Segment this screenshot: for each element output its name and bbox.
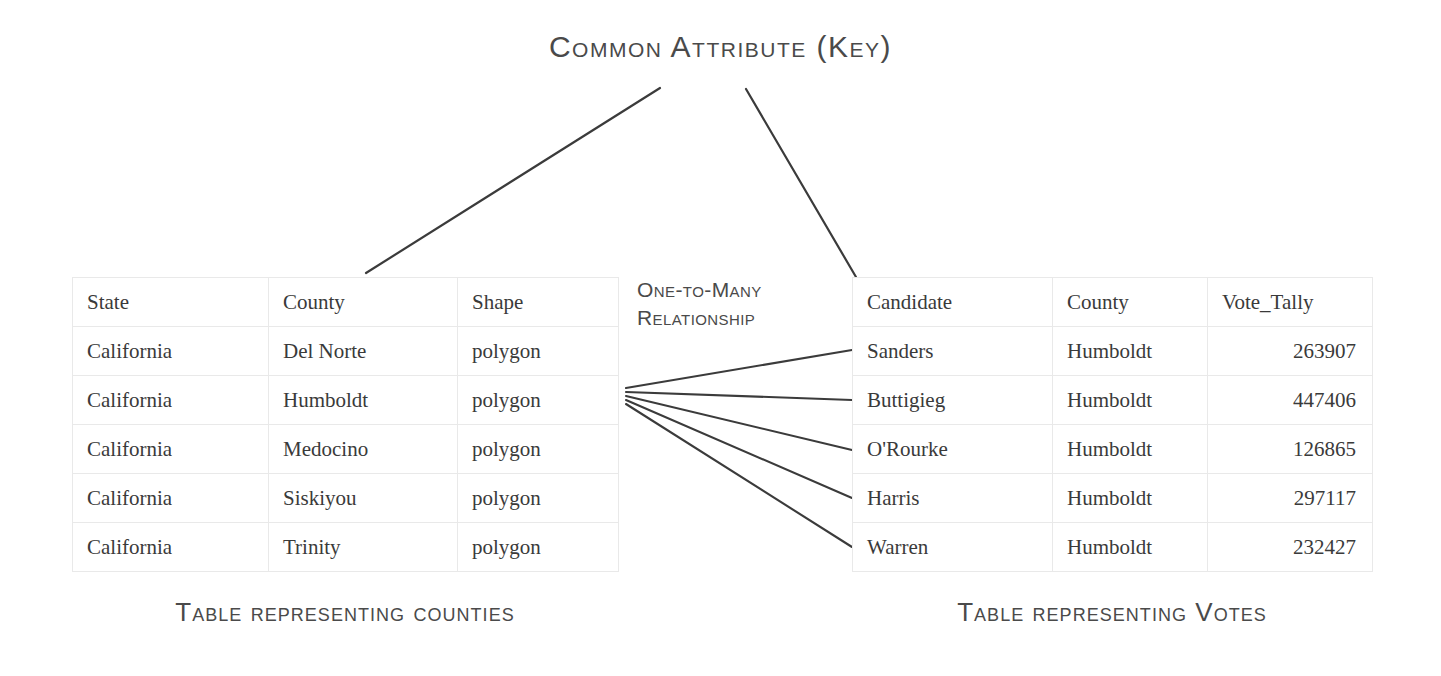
- column-header-county: County: [1053, 278, 1208, 327]
- cell-shape: polygon: [458, 474, 619, 523]
- cell-state: California: [73, 327, 269, 376]
- cell-state: California: [73, 523, 269, 572]
- table-row: Harris Humboldt 297117: [853, 474, 1373, 523]
- table-header-row: State County Shape: [73, 278, 619, 327]
- cell-vote-tally: 126865: [1208, 425, 1373, 474]
- table-row: Warren Humboldt 232427: [853, 523, 1373, 572]
- table-row: Sanders Humboldt 263907: [853, 327, 1373, 376]
- key-pointer-left-line: [366, 88, 660, 273]
- cell-county: Humboldt: [269, 376, 458, 425]
- column-header-county: County: [269, 278, 458, 327]
- cell-county: Humboldt: [1053, 523, 1208, 572]
- cell-county: Humboldt: [1053, 474, 1208, 523]
- cell-candidate: Harris: [853, 474, 1053, 523]
- relation-line-3: [626, 396, 852, 450]
- cell-vote-tally: 263907: [1208, 327, 1373, 376]
- relation-line-5: [626, 404, 852, 547]
- relation-line-4: [626, 400, 852, 498]
- votes-table: Candidate County Vote_Tally Sanders Humb…: [852, 277, 1373, 572]
- table-row: California Medocino polygon: [73, 425, 619, 474]
- table-row: California Trinity polygon: [73, 523, 619, 572]
- table-row: California Humboldt polygon: [73, 376, 619, 425]
- column-header-candidate: Candidate: [853, 278, 1053, 327]
- cell-candidate: Sanders: [853, 327, 1053, 376]
- table-row: California Del Norte polygon: [73, 327, 619, 376]
- counties-table: State County Shape California Del Norte …: [72, 277, 619, 572]
- cell-state: California: [73, 425, 269, 474]
- key-pointer-right-line: [746, 89, 856, 277]
- cell-shape: polygon: [458, 523, 619, 572]
- cell-county: Medocino: [269, 425, 458, 474]
- cell-county: Humboldt: [1053, 327, 1208, 376]
- cell-county: Del Norte: [269, 327, 458, 376]
- caption-counties-table: Table representing counties: [72, 597, 618, 628]
- cell-county: Trinity: [269, 523, 458, 572]
- cell-state: California: [73, 376, 269, 425]
- table-row: California Siskiyou polygon: [73, 474, 619, 523]
- column-header-vote-tally: Vote_Tally: [1208, 278, 1373, 327]
- diagram-canvas: Common Attribute (Key) One-to-Many Relat…: [0, 0, 1441, 676]
- table-header-row: Candidate County Vote_Tally: [853, 278, 1373, 327]
- cell-state: California: [73, 474, 269, 523]
- table-row: Buttigieg Humboldt 447406: [853, 376, 1373, 425]
- cell-vote-tally: 447406: [1208, 376, 1373, 425]
- cell-county: Humboldt: [1053, 425, 1208, 474]
- cell-vote-tally: 297117: [1208, 474, 1373, 523]
- cell-shape: polygon: [458, 425, 619, 474]
- column-header-state: State: [73, 278, 269, 327]
- caption-votes-table: Table representing Votes: [852, 597, 1372, 628]
- page-title: Common Attribute (Key): [0, 30, 1441, 64]
- cell-vote-tally: 232427: [1208, 523, 1373, 572]
- relationship-label: One-to-Many Relationship: [637, 276, 847, 331]
- cell-shape: polygon: [458, 327, 619, 376]
- cell-candidate: O'Rourke: [853, 425, 1053, 474]
- cell-shape: polygon: [458, 376, 619, 425]
- relation-line-2: [626, 392, 852, 400]
- cell-county: Siskiyou: [269, 474, 458, 523]
- relation-line-1: [626, 350, 852, 388]
- cell-county: Humboldt: [1053, 376, 1208, 425]
- cell-candidate: Buttigieg: [853, 376, 1053, 425]
- cell-candidate: Warren: [853, 523, 1053, 572]
- table-row: O'Rourke Humboldt 126865: [853, 425, 1373, 474]
- column-header-shape: Shape: [458, 278, 619, 327]
